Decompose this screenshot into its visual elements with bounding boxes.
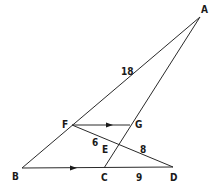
point-label-E: E <box>102 144 108 155</box>
point-label-F: F <box>62 119 68 130</box>
point-label-B: B <box>12 171 19 182</box>
length-label-AF: 18 <box>121 66 134 77</box>
point-label-D: D <box>170 172 177 183</box>
point-label-G: G <box>135 119 142 130</box>
arrow-icon-FG <box>106 123 113 128</box>
segment-BD <box>22 167 173 168</box>
geometry-diagram: A B C D E F G 18 6 8 9 <box>0 0 210 186</box>
segments <box>22 17 200 168</box>
length-label-ED: 8 <box>140 144 146 155</box>
segment-FD <box>72 125 173 167</box>
length-label-FE: 6 <box>92 137 98 148</box>
segment-AC <box>104 17 200 168</box>
length-label-CD: 9 <box>136 172 142 183</box>
arrow-icon-BC <box>70 166 77 171</box>
point-label-C: C <box>101 172 108 183</box>
segment-AB <box>22 17 200 168</box>
point-label-A: A <box>201 4 208 15</box>
